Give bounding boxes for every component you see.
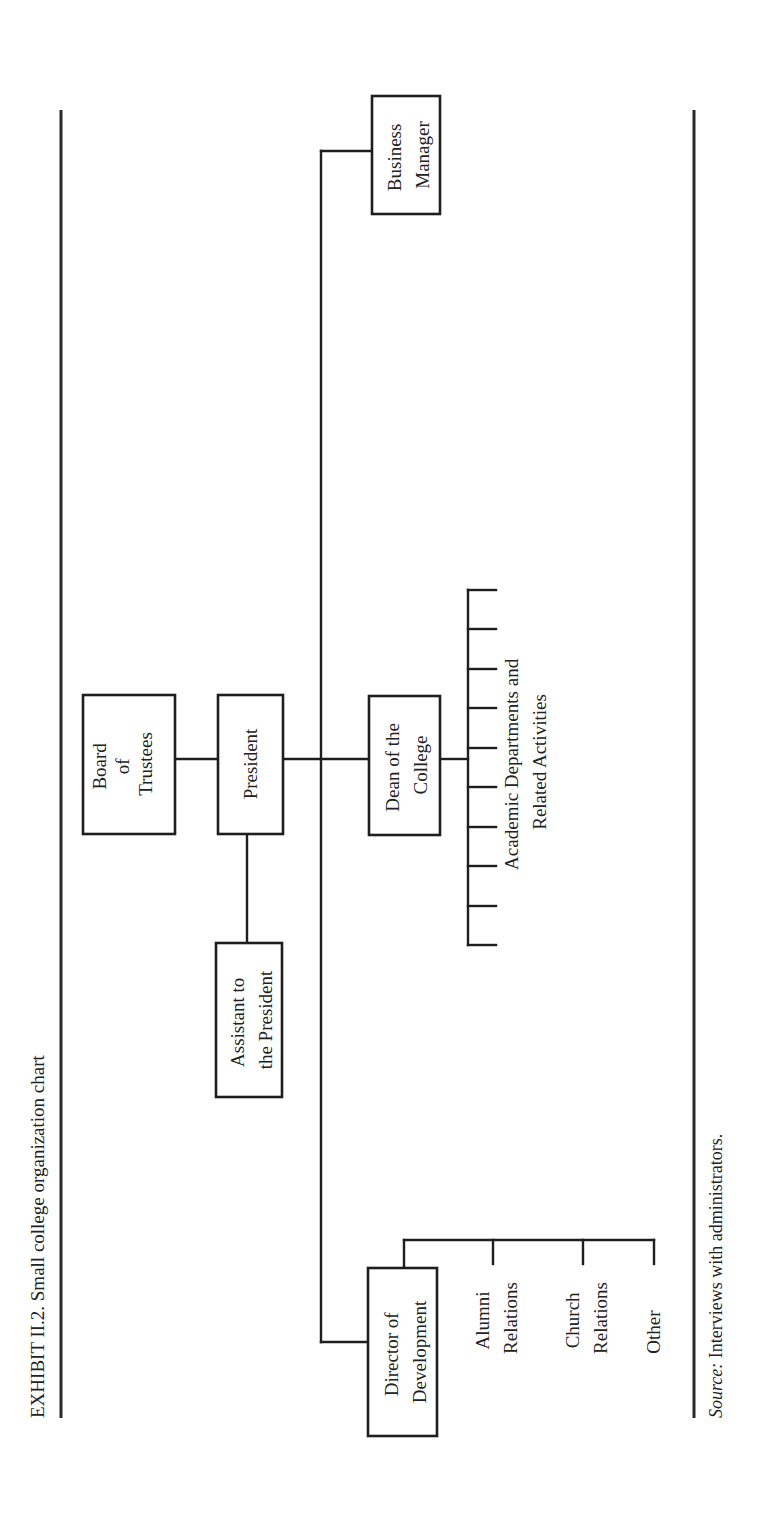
academic-comb-ticks	[468, 590, 496, 945]
label-church-relations: Church Relations	[562, 1282, 611, 1354]
node-assistant-to-president: Assistant to the President	[216, 943, 282, 1097]
node-president: President	[218, 695, 283, 834]
source-text: Interviews with administrators.	[706, 1134, 726, 1363]
node-director-of-development: Director of Development	[368, 1268, 437, 1436]
label-academic-departments: Academic Departments and Related Activit…	[501, 654, 550, 870]
node-dean-of-college: Dean of the College	[369, 696, 440, 835]
node-board-of-trustees: Board of Trustees	[83, 695, 175, 834]
node-business-manager: Business Manager	[372, 96, 440, 214]
source-note: Source: Interviews with administrators.	[706, 1134, 726, 1418]
label-other: Other	[643, 1310, 664, 1354]
exhibit-title: EXHIBIT II.2. Small college organization…	[27, 1054, 48, 1418]
org-chart: EXHIBIT II.2. Small college organization…	[0, 0, 776, 1535]
svg-text:President: President	[240, 728, 261, 799]
source-label: Source:	[706, 1363, 726, 1418]
label-alumni-relations: Alumni Relations	[472, 1282, 521, 1354]
